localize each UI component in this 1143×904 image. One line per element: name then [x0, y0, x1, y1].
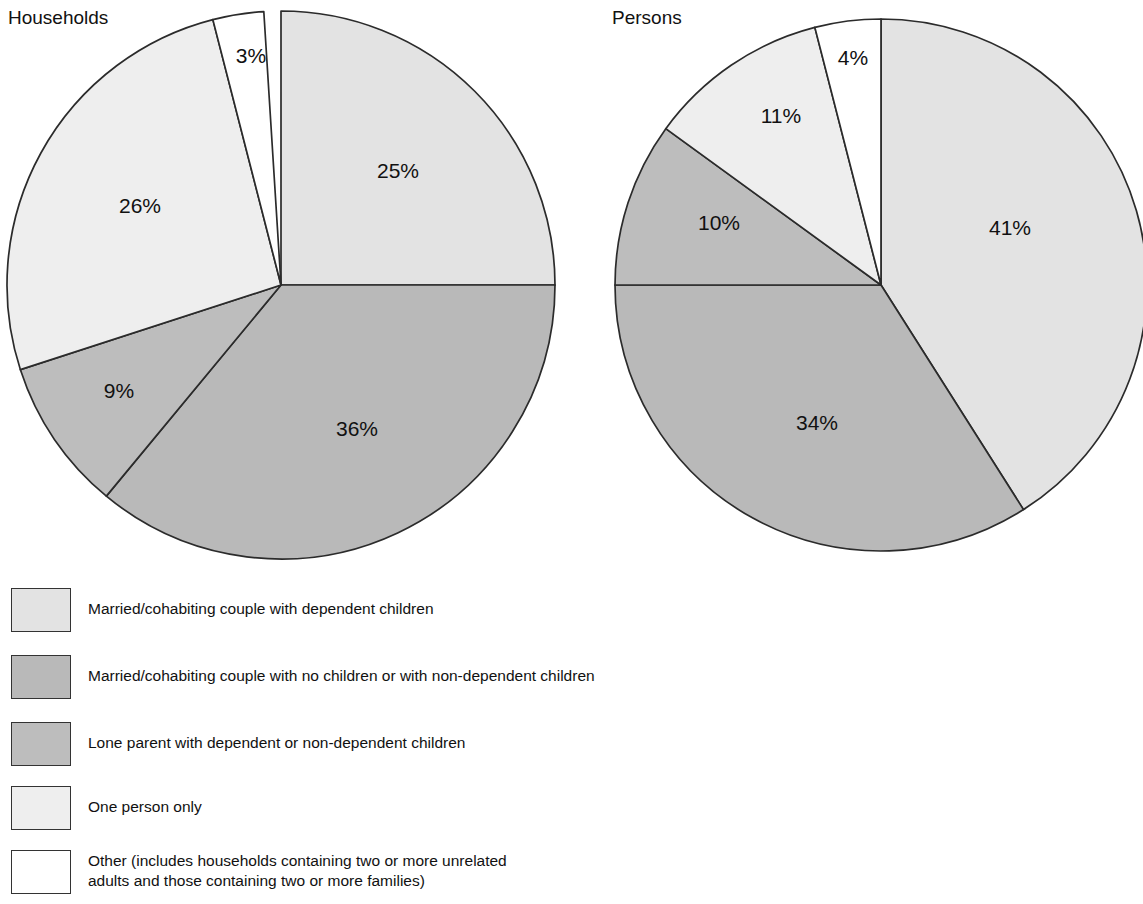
legend-item[interactable]: Married/cohabiting couple with no childr… [0, 653, 1100, 715]
pie-slice-label: 3% [236, 44, 266, 67]
pie-slice-label: 36% [336, 417, 378, 440]
pie-persons: 41%34%10%11%4% [615, 19, 1143, 551]
legend-item[interactable]: Lone parent with dependent or non-depend… [0, 720, 1100, 782]
pie-slice[interactable] [281, 11, 555, 285]
legend-item[interactable]: One person only [0, 784, 1100, 846]
legend-item[interactable]: Other (includes households containing tw… [0, 848, 1100, 904]
legend-label: Lone parent with dependent or non-depend… [88, 733, 465, 753]
pie-slice-label: 10% [698, 211, 740, 234]
legend-label: Other (includes households containing tw… [88, 851, 507, 891]
pie-slice-label: 34% [796, 411, 838, 434]
legend-label: Married/cohabiting couple with no childr… [88, 666, 595, 686]
legend-swatch [11, 588, 71, 632]
legend-item[interactable]: Married/cohabiting couple with dependent… [0, 586, 1100, 648]
pie-households: 25%36%9%26%3% [7, 11, 555, 559]
figure-canvas: Households Persons 25%36%9%26%3%41%34%10… [0, 0, 1143, 904]
pie-slice-label: 25% [377, 159, 419, 182]
pie-slice-label: 26% [119, 194, 161, 217]
pie-slice-label: 41% [989, 216, 1031, 239]
legend-swatch [11, 722, 71, 766]
legend-label: Married/cohabiting couple with dependent… [88, 599, 434, 619]
legend-label: One person only [88, 797, 202, 817]
legend-swatch [11, 786, 71, 830]
pie-slice-label: 4% [838, 46, 868, 69]
pie-slice-label: 9% [104, 379, 134, 402]
legend-swatch [11, 655, 71, 699]
legend-swatch [11, 850, 71, 894]
pie-slice-label: 11% [761, 104, 801, 127]
